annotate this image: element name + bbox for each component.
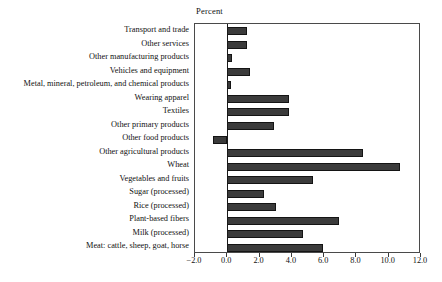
bar [227,122,274,130]
category-label: Sugar (processed) [129,185,189,199]
category-label: Transport and trade [124,23,189,37]
x-tick-label: 6.0 [318,256,328,265]
category-label: Other agricultural products [99,145,189,159]
bar [227,230,303,238]
x-tick-label: 10.0 [380,256,395,265]
bar-row [195,159,419,173]
x-tick-label: 2.0 [253,256,263,265]
plot-area [194,23,420,253]
category-label: Textiles [163,104,189,118]
x-tick-label: 8.0 [350,256,360,265]
category-label: Other primary products [111,118,189,132]
bar [227,108,288,116]
bar-row [195,24,419,38]
category-axis-labels: Transport and tradeOther servicesOther m… [0,23,192,253]
bar [227,244,322,252]
bar-chart: Percent Transport and tradeOther service… [0,0,442,282]
category-label: Other food products [122,131,189,145]
bar [227,163,400,171]
bar [227,95,288,103]
bar [227,176,313,184]
category-label: Milk (processed) [133,226,189,240]
bar [227,190,264,198]
bar-row [195,105,419,119]
category-label: Plant-based fibers [129,212,189,226]
bar [227,41,246,49]
bar-row [195,132,419,146]
bar-row [195,186,419,200]
bar-row [195,51,419,65]
bar-row [195,65,419,79]
category-label: Wheat [167,158,189,172]
zero-baseline [227,24,228,252]
category-label: Vehicles and equipment [110,64,189,78]
x-tick-label: 0.0 [221,256,231,265]
x-tick-label: 12.0 [413,256,428,265]
bar-row [195,119,419,133]
bar-row [195,200,419,214]
category-label: Wearing apparel [135,91,189,105]
bar-row [195,146,419,160]
bar [227,149,363,157]
category-label: Meat: cattle, sheep, goat, horse [86,239,189,253]
category-label: Other manufacturing products [89,50,189,64]
bar-row [195,213,419,227]
bar-row [195,240,419,254]
bar-rows [195,24,419,252]
bar [227,203,275,211]
bar-row [195,78,419,92]
bar-row [195,173,419,187]
bar-row [195,92,419,106]
chart-axis-title: Percent [196,6,223,16]
bar [227,217,338,225]
bar [213,136,228,144]
category-label: Vegetables and fruits [119,172,189,186]
bar-row [195,38,419,52]
x-tick-label: −2.0 [186,256,201,265]
category-label: Rice (processed) [133,199,189,213]
bar-row [195,227,419,241]
x-tick-label: 4.0 [286,256,296,265]
bar [227,68,250,76]
x-axis-tick-labels: −2.00.02.04.06.08.010.012.0 [194,256,420,270]
bar [227,27,246,35]
category-label: Metal, mineral, petroleum, and chemical … [24,77,189,91]
category-label: Other services [141,37,189,51]
